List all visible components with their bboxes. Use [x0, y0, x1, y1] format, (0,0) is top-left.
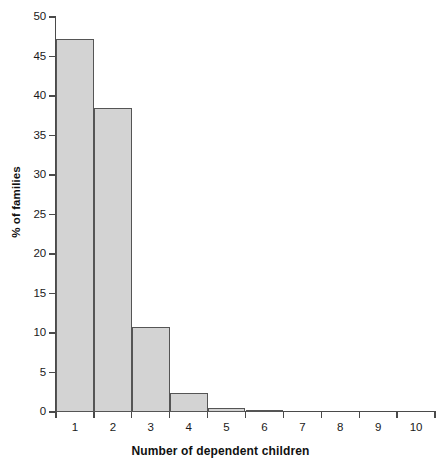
- x-tick-label: 7: [282, 421, 322, 434]
- x-tick-label: 2: [93, 421, 133, 434]
- x-tick-label: 10: [396, 421, 436, 434]
- y-tick-label: 45: [6, 51, 46, 63]
- x-tick-label: 9: [358, 421, 398, 434]
- x-tick-label: 6: [244, 421, 284, 434]
- y-tick-mark: [49, 95, 56, 96]
- bar: [94, 108, 132, 412]
- y-tick-label: 15: [6, 288, 46, 300]
- x-tick-mark: [169, 412, 170, 418]
- y-tick-mark: [49, 214, 56, 215]
- y-tick-label: 10: [6, 327, 46, 339]
- x-tick-mark: [321, 412, 322, 418]
- y-tick-mark: [49, 174, 56, 175]
- bar: [132, 327, 170, 412]
- y-tick-mark: [49, 135, 56, 136]
- x-tick-label: 1: [55, 421, 95, 434]
- y-tick-label: 50: [6, 11, 46, 23]
- plot-area: [56, 17, 435, 412]
- bar: [170, 393, 208, 412]
- y-tick-label: 40: [6, 90, 46, 102]
- x-tick-label: 4: [169, 421, 209, 434]
- y-tick-mark: [49, 293, 56, 294]
- y-tick-label: 5: [6, 367, 46, 379]
- x-tick-label: 5: [207, 421, 247, 434]
- x-tick-label: 3: [131, 421, 171, 434]
- x-axis-title: Number of dependent children: [0, 444, 441, 458]
- bar: [208, 408, 246, 412]
- x-tick-mark: [396, 412, 397, 418]
- x-tick-label: 8: [320, 421, 360, 434]
- x-tick-mark: [245, 412, 246, 418]
- y-axis-title: % of families: [10, 142, 22, 262]
- x-tick-mark: [207, 412, 208, 418]
- x-tick-mark: [283, 412, 284, 418]
- y-tick-label: 0: [6, 406, 46, 418]
- y-tick-mark: [49, 372, 56, 373]
- x-tick-mark: [359, 412, 360, 418]
- x-tick-mark: [131, 412, 132, 418]
- x-tick-mark: [93, 412, 94, 418]
- bar: [56, 39, 94, 412]
- y-tick-mark: [49, 253, 56, 254]
- x-tick-mark: [434, 412, 435, 418]
- x-tick-mark: [55, 412, 56, 418]
- y-tick-mark: [49, 16, 56, 17]
- bar-chart: 05101520253035404550 12345678910 % of fa…: [0, 0, 441, 468]
- y-tick-label: 35: [6, 130, 46, 142]
- bar: [246, 410, 284, 412]
- y-tick-mark: [49, 56, 56, 57]
- y-tick-mark: [49, 332, 56, 333]
